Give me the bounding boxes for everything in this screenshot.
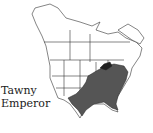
species-label-line2: Emperor bbox=[1, 97, 50, 110]
species-label: Tawny Emperor bbox=[1, 84, 50, 110]
species-label-line1: Tawny bbox=[1, 84, 50, 97]
range-map bbox=[0, 0, 153, 133]
